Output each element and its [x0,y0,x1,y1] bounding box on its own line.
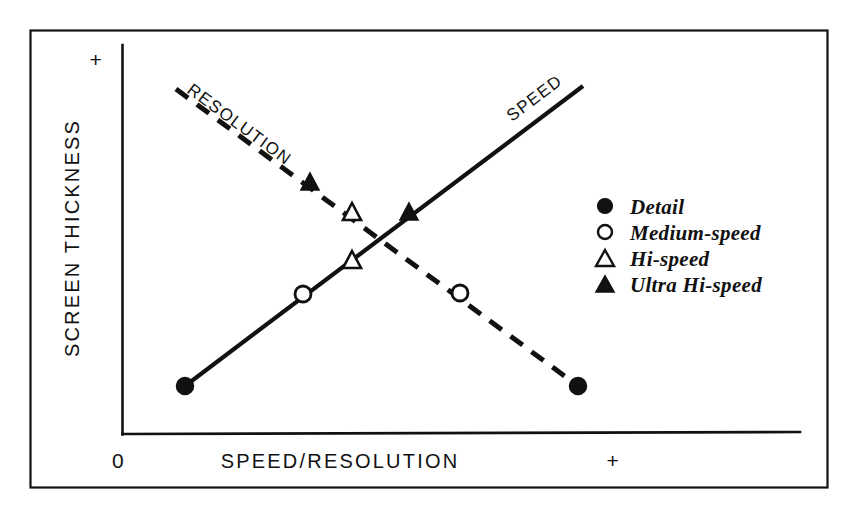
marker-filled-circle-speed [177,378,194,395]
legend-filled-circle-icon [598,199,613,214]
legend-label-medium-speed: Medium-speed [629,221,761,245]
legend-label-detail: Detail [629,195,684,219]
marker-open-circle-resolution [452,285,468,301]
screen-thickness-vs-speed-resolution-chart: + SCREEN THICKNESS 0 SPEED/RESOLUTION + … [0,0,853,514]
legend-label-ultra-hi-speed: Ultra Hi-speed [630,273,762,297]
y-axis-max-label: + [90,48,103,71]
y-axis-title: SCREEN THICKNESS [61,119,83,357]
legend-label-hi-speed: Hi-speed [629,247,710,271]
marker-open-circle-speed [295,286,311,302]
x-axis-min-label: 0 [112,449,124,472]
x-axis-max-label: + [607,449,620,472]
marker-filled-circle-resolution [570,378,587,395]
x-axis-title: SPEED/RESOLUTION [221,450,460,472]
legend-open-circle-icon [598,225,612,239]
figure-root: + SCREEN THICKNESS 0 SPEED/RESOLUTION + … [0,0,853,514]
